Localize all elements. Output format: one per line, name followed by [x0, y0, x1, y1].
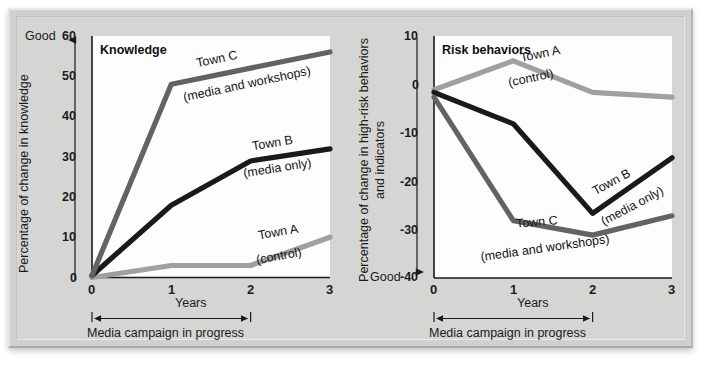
- knowledge-label-town-b: Town B: [251, 134, 293, 153]
- knowledge-good-label: Good: [25, 30, 56, 43]
- knowledge-xtick-2: 2: [247, 283, 254, 296]
- knowledge-ytick-50: 50: [62, 70, 76, 83]
- risk-xtick-0: 0: [430, 283, 437, 296]
- knowledge-sublabel-town-b: (media only): [242, 157, 312, 180]
- risk-xtick-1: 1: [510, 283, 517, 296]
- knowledge-y-axis-title: Percentage of change in knowledge: [18, 74, 31, 273]
- knowledge-xtick-0: 0: [88, 283, 95, 296]
- risk-label-town-c: Town C: [516, 214, 559, 230]
- risk-xtick-3: 3: [668, 283, 675, 296]
- risk-ytick--40: -40: [400, 271, 418, 284]
- risk-ytick--30: -30: [400, 224, 418, 237]
- knowledge-ytick-0: 0: [70, 272, 77, 285]
- knowledge-xtick-3: 3: [326, 283, 333, 296]
- risk-sublabel-town-c: (media and workshops): [480, 233, 610, 263]
- knowledge-sublabel-town-c: (media and workshops): [182, 65, 312, 104]
- risk-ytick-0: 0: [412, 79, 419, 92]
- chart-text-layer: Knowledge Good 60 50 40 30 20 10 0 Perce…: [0, 0, 701, 366]
- knowledge-ytick-40: 40: [62, 110, 76, 123]
- knowledge-label-town-a: Town A: [257, 223, 299, 242]
- risk-sublabel-town-a: (control): [507, 67, 554, 89]
- knowledge-panel-title: Knowledge: [100, 44, 167, 57]
- knowledge-label-town-c: Town C: [195, 49, 238, 70]
- risk-y-axis-title-wrap: Percentage of change in high-risk behavi…: [357, 35, 388, 285]
- knowledge-ytick-20: 20: [62, 191, 76, 204]
- knowledge-campaign-note: Media campaign in progress: [87, 327, 244, 340]
- figure-root: Knowledge Good 60 50 40 30 20 10 0 Perce…: [0, 0, 701, 366]
- risk-label-town-b: Town B: [590, 167, 632, 197]
- knowledge-ytick-10: 10: [62, 231, 76, 244]
- risk-xtick-2: 2: [589, 283, 596, 296]
- risk-panel-title: Risk behaviors: [442, 44, 531, 57]
- risk-campaign-note: Media campaign in progress: [429, 327, 586, 340]
- risk-y-axis-title: Percentage of change in high-risk behavi…: [357, 35, 388, 285]
- knowledge-ytick-60: 60: [62, 30, 76, 43]
- risk-ytick--10: -10: [400, 127, 418, 140]
- risk-x-axis-title: Years: [517, 297, 549, 310]
- knowledge-xtick-1: 1: [168, 283, 175, 296]
- knowledge-ytick-30: 30: [62, 151, 76, 164]
- risk-ytick--20: -20: [400, 176, 418, 189]
- knowledge-sublabel-town-a: (control): [255, 246, 302, 266]
- knowledge-x-axis-title: Years: [175, 297, 207, 310]
- risk-ytick-10: 10: [404, 30, 418, 43]
